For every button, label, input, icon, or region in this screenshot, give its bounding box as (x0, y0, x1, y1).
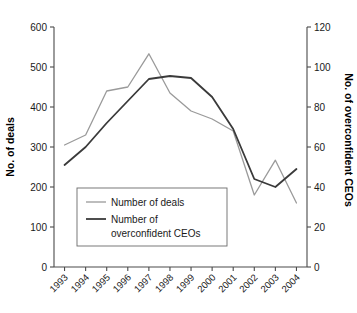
right-axis-title: No. of overconfident CEOs (343, 73, 355, 207)
left-axis-title: No. of deals (4, 117, 16, 177)
left-tick-label: 500 (30, 62, 47, 73)
left-tick-label: 200 (30, 182, 47, 193)
legend-label-deals: Number of deals (111, 197, 184, 208)
right-tick-label: 120 (314, 22, 331, 33)
right-tick-label: 40 (314, 182, 326, 193)
left-tick-label: 300 (30, 142, 47, 153)
right-tick-label: 80 (314, 102, 326, 113)
chart-legend: Number of dealsNumber ofoverconfident CE… (77, 188, 227, 246)
left-tick-label: 600 (30, 22, 47, 33)
left-tick-label: 100 (30, 222, 47, 233)
chart-container: 0100200300400500600 020406080100120 1993… (0, 0, 357, 313)
legend-label-ceos-line2: overconfident CEOs (111, 228, 201, 239)
right-tick-label: 60 (314, 142, 326, 153)
left-tick-label: 400 (30, 102, 47, 113)
right-tick-label: 100 (314, 62, 331, 73)
left-tick-label: 0 (41, 262, 47, 273)
legend-label-ceos-line1: Number of (111, 214, 158, 225)
right-tick-label: 0 (314, 262, 320, 273)
right-tick-label: 20 (314, 222, 326, 233)
dual-axis-line-chart: 0100200300400500600 020406080100120 1993… (0, 0, 357, 313)
